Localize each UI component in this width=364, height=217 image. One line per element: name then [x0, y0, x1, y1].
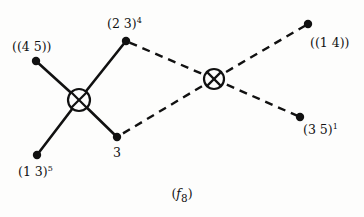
endpoint-dot-14[interactable]	[304, 20, 312, 28]
left-crossing-node[interactable]	[68, 89, 90, 111]
diagram-canvas	[0, 0, 364, 217]
endpoint-label-45: ((4 5))	[12, 41, 51, 54]
edge-right-to-14	[214, 24, 308, 79]
endpoint-label-23-text: (2 3)	[107, 16, 137, 31]
figure-container: ((4 5)) (1 3)5 (2 3)4 3 ((1 4)) (3 5)1 (…	[0, 0, 364, 217]
edge-right-to-3	[117, 79, 214, 137]
endpoint-label-13-text: (1 3)	[18, 164, 48, 179]
endpoint-label-14-text: ((1 4))	[310, 35, 349, 50]
endpoint-label-14: ((1 4))	[310, 37, 349, 50]
endpoint-label-13: (1 3)5	[18, 166, 53, 179]
endpoint-label-13-sup: 5	[48, 164, 53, 173]
endpoint-label-23: (2 3)4	[107, 18, 142, 31]
endpoint-label-23-sup: 4	[137, 16, 142, 25]
figure-caption: (f8)	[0, 186, 364, 204]
right-crossing-node[interactable]	[204, 69, 224, 89]
caption-close-paren: )	[188, 186, 193, 201]
endpoint-dot-45[interactable]	[32, 57, 40, 65]
caption-subscript: 8	[181, 192, 188, 204]
endpoint-label-3-text: 3	[113, 145, 121, 160]
endpoint-label-35-text: (3 5)	[303, 122, 333, 137]
endpoint-dot-3[interactable]	[113, 133, 121, 141]
endpoint-label-45-text: ((4 5))	[12, 39, 51, 54]
edge-right-to-35	[214, 79, 300, 117]
edge-right-to-23	[126, 41, 214, 79]
endpoint-dot-23[interactable]	[122, 37, 130, 45]
endpoint-dot-35[interactable]	[296, 113, 304, 121]
endpoint-label-35-sup: 1	[333, 122, 338, 131]
endpoint-label-35: (3 5)1	[303, 124, 338, 137]
endpoint-dot-13[interactable]	[33, 151, 41, 159]
endpoint-label-3: 3	[113, 147, 121, 160]
